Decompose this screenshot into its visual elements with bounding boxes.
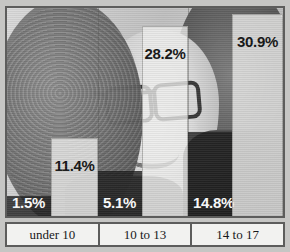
plot-area: 1.5% 11.4% 5.1% 28.2% 14.8% 30.9% <box>5 6 285 218</box>
bar-under10-light[interactable]: 11.4% <box>51 138 98 216</box>
bar-value-under10-light: 11.4% <box>52 157 97 174</box>
category-label-14-to-17: 14 to 17 <box>190 224 283 245</box>
bar-value-10to13-light: 28.2% <box>143 45 187 62</box>
bar-14to17-dark[interactable]: 14.8% <box>188 132 232 216</box>
bar-value-14to17-light: 30.9% <box>233 33 282 50</box>
category-axis-strip: under 10 10 to 13 14 to 17 <box>5 222 285 247</box>
category-label-10-to-13: 10 to 13 <box>98 224 191 245</box>
bar-10to13-dark[interactable]: 5.1% <box>98 171 142 216</box>
category-label-under-10: under 10 <box>7 224 98 245</box>
grouped-bar-chart: 1.5% 11.4% 5.1% 28.2% 14.8% 30.9% under … <box>0 0 290 252</box>
bar-14to17-light[interactable]: 30.9% <box>232 14 283 216</box>
bar-value-10to13-dark: 5.1% <box>98 194 142 211</box>
bar-10to13-light[interactable]: 28.2% <box>142 26 188 216</box>
bar-value-under10-dark: 1.5% <box>7 194 51 211</box>
bar-value-14to17-dark: 14.8% <box>188 194 232 211</box>
bar-under10-dark[interactable]: 1.5% <box>7 196 51 216</box>
